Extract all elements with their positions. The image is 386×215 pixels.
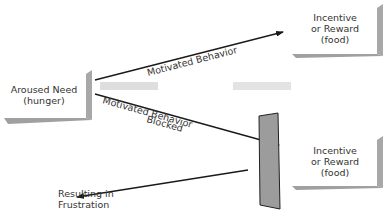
incentive-top-line3: (food) xyxy=(295,34,375,45)
incentive-bottom-node: Incentive or Reward (food) xyxy=(295,145,375,178)
aroused-need-sublabel: (hunger) xyxy=(2,95,86,106)
incentive-bottom-line1: Incentive xyxy=(295,145,375,156)
frustration-line2: Frustration xyxy=(58,199,114,210)
scan-smudge xyxy=(100,82,158,90)
barrier xyxy=(259,113,280,209)
incentive-bottom-line2: or Reward xyxy=(295,156,375,167)
motivation-diagram: Motivated Behavior Motivated Behavior Bl… xyxy=(0,0,386,215)
incentive-bottom-line3: (food) xyxy=(295,167,375,178)
incentive-top-node: Incentive or Reward (food) xyxy=(295,12,375,45)
motivated-behavior-label: Motivated Behavior xyxy=(146,44,239,78)
incentive-top-line1: Incentive xyxy=(295,12,375,23)
incentive-top-line2: or Reward xyxy=(295,23,375,34)
aroused-need-node: Aroused Need (hunger) xyxy=(2,84,86,106)
aroused-need-label: Aroused Need xyxy=(2,84,86,95)
scan-smudge xyxy=(233,82,291,90)
frustration-line1: Resulting in xyxy=(58,188,114,199)
frustration-node: Resulting in Frustration xyxy=(58,188,114,210)
